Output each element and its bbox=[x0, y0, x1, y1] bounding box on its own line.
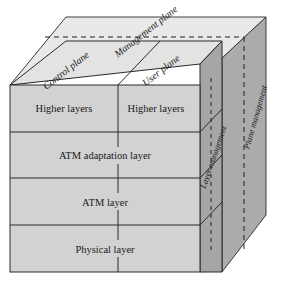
layer-label-higher-layers-control: Higher layers bbox=[36, 103, 93, 114]
layer-label-higher-layers-user: Higher layers bbox=[128, 103, 185, 114]
layer-label-physical-layer: Physical layer bbox=[75, 244, 135, 255]
cube-diagram: Management plane Control plane User plan… bbox=[0, 0, 284, 294]
layer-label-atm-layer: ATM layer bbox=[82, 197, 128, 208]
layer-label-atm-adaptation-layer: ATM adaptation layer bbox=[59, 150, 152, 161]
atm-reference-model-figure: Management plane Control plane User plan… bbox=[0, 0, 284, 294]
